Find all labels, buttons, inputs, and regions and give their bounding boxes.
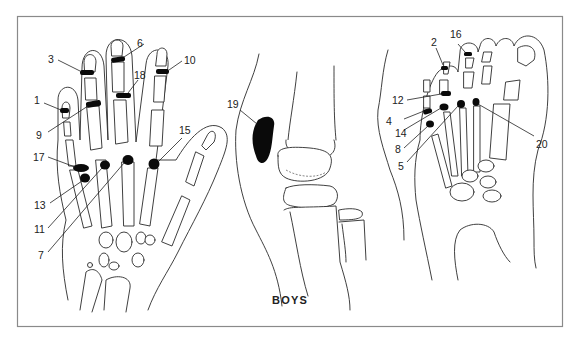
site-3 <box>80 70 94 75</box>
label-7: 7 <box>38 249 44 261</box>
label-3: 3 <box>48 53 54 65</box>
site-19 <box>253 117 275 163</box>
label-12: 12 <box>392 94 404 106</box>
label-13: 13 <box>34 199 46 211</box>
label-9: 9 <box>36 129 42 141</box>
label-17: 17 <box>33 151 45 163</box>
label-15: 15 <box>179 124 191 136</box>
foot-drawing: 2 16 12 4 14 8 5 20 <box>378 28 548 280</box>
label-20: 20 <box>536 138 548 150</box>
label-14: 14 <box>395 127 407 139</box>
site-15 <box>149 159 160 170</box>
hand-drawing: 3 6 10 18 1 9 15 17 13 11 7 <box>33 37 227 312</box>
label-8: 8 <box>395 143 401 155</box>
site-14 <box>440 104 449 111</box>
label-10: 10 <box>184 54 196 66</box>
site-17 <box>73 164 89 172</box>
site-7 <box>123 155 134 165</box>
site-5 <box>457 100 465 108</box>
label-6: 6 <box>137 37 143 49</box>
knee-drawing: 19 <box>227 54 366 310</box>
label-19: 19 <box>227 98 239 110</box>
label-4: 4 <box>386 115 392 127</box>
label-18: 18 <box>134 69 146 81</box>
site-2 <box>441 66 448 70</box>
label-5: 5 <box>398 160 404 172</box>
site-18 <box>116 93 131 98</box>
label-16: 16 <box>450 28 462 40</box>
site-10 <box>156 69 169 74</box>
site-12 <box>441 91 451 96</box>
ossification-diagram: 3 6 10 18 1 9 15 17 13 11 7 19 <box>0 0 578 342</box>
label-2: 2 <box>431 36 437 48</box>
site-1 <box>60 108 69 113</box>
label-1: 1 <box>34 94 40 106</box>
site-20 <box>473 98 480 106</box>
caption-boys: BOYS <box>272 294 308 306</box>
label-11: 11 <box>34 223 45 235</box>
site-16 <box>464 52 472 56</box>
